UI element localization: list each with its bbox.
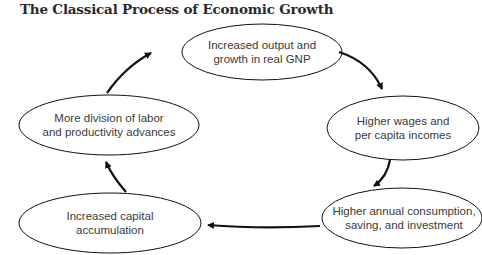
node-label-line: Higher wages and: [357, 115, 450, 127]
node-higher-consumption: Higher annual consumption, saving, and i…: [322, 188, 482, 248]
node-label-line: per capita incomes: [355, 129, 452, 141]
node-label-line: and productivity advances: [43, 126, 176, 138]
node-increased-output: Increased output and growth in real GNP: [182, 24, 342, 80]
node-label-line: More division of labor: [54, 112, 163, 124]
node-label-line: Increased capital: [67, 210, 154, 222]
arrow-output-to-wages: [339, 52, 382, 89]
arrow-wages-to-consumption: [374, 160, 390, 186]
node-higher-wages: Higher wages and per capita incomes: [327, 96, 479, 160]
node-increased-capital: Increased capital accumulation: [19, 193, 201, 253]
arrow-capital-to-division: [106, 162, 126, 192]
cycle-diagram: Increased output and growth in real GNP …: [0, 0, 482, 255]
node-label-line: Higher annual consumption,: [332, 205, 475, 217]
node-label-line: accumulation: [76, 224, 144, 236]
node-label-line: Increased output and: [208, 39, 316, 51]
node-label-line: saving, and investment: [345, 219, 463, 231]
arrow-consumption-to-capital: [208, 225, 320, 227]
arrow-division-to-output: [107, 53, 151, 93]
node-label-line: growth in real GNP: [213, 53, 310, 65]
node-division-of-labor: More division of labor and productivity …: [19, 95, 199, 155]
